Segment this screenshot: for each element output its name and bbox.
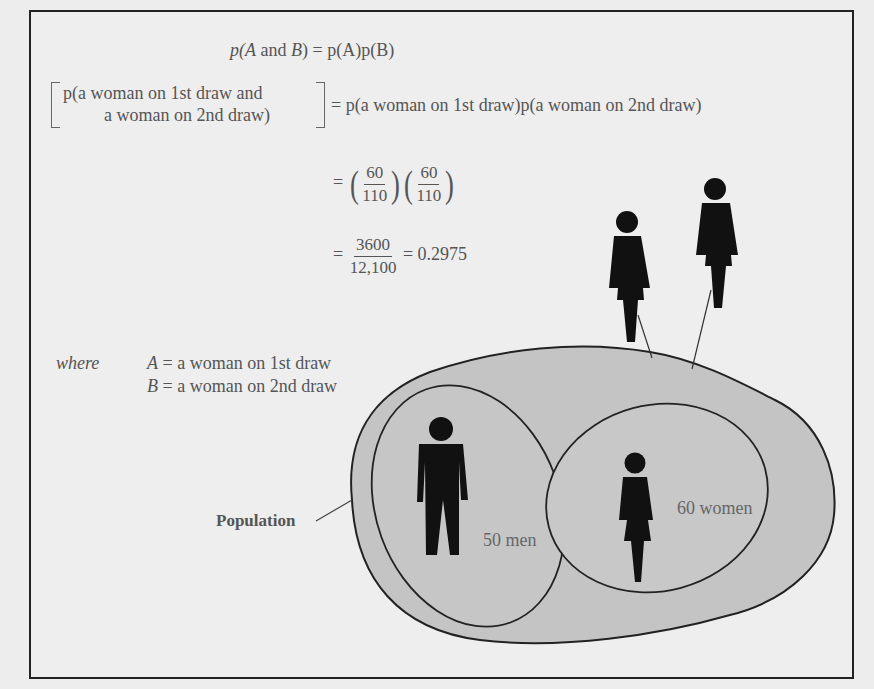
drawn-woman-icon-1 [609,211,650,342]
population-label: Population [216,512,295,529]
population-diagram [0,0,874,689]
women-count-label: 60 women [677,499,753,517]
drawn-woman-icon-2 [696,178,738,308]
men-count-label: 50 men [483,531,537,549]
population-pointer [316,500,352,521]
draw-line-2 [692,290,711,369]
